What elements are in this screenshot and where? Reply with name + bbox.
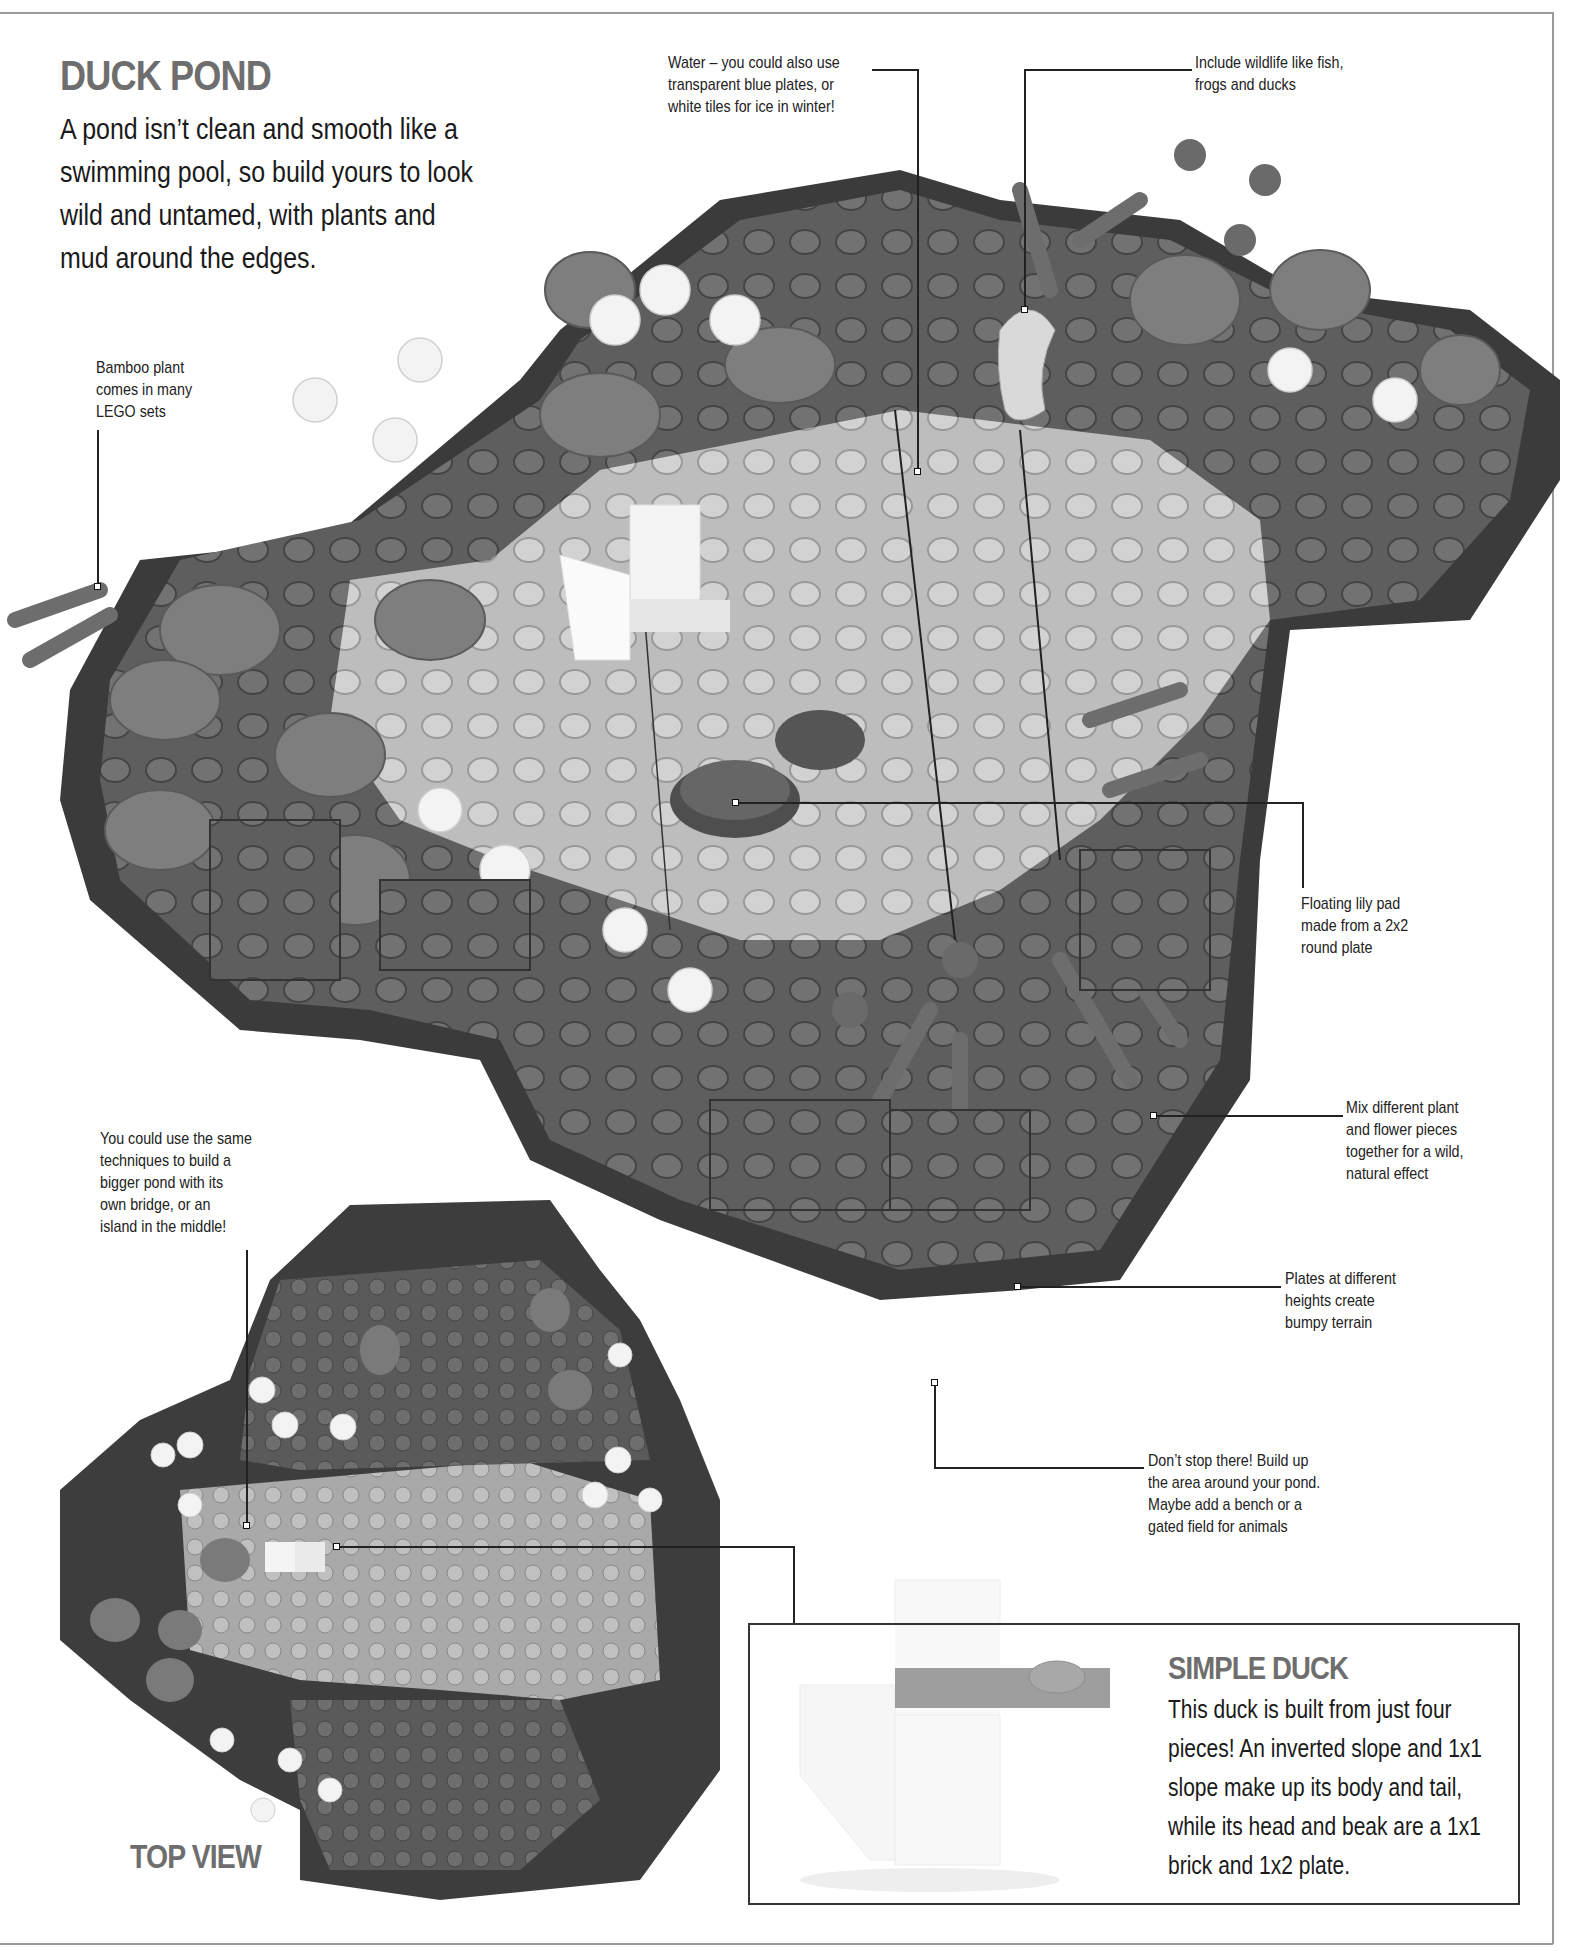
simple-duck-image — [0, 0, 1588, 1951]
simple-duck-description: This duck is built from just four pieces… — [1168, 1690, 1482, 1885]
simple-duck-title: SIMPLE DUCK — [1168, 1650, 1348, 1687]
